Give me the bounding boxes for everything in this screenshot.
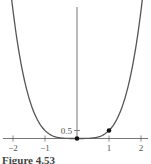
x-tick-label: −1 (40, 143, 50, 153)
data-point (107, 128, 112, 133)
x-tick-label: −2 (8, 143, 18, 153)
y-tick-label: 0.5 (61, 126, 73, 136)
data-point (75, 136, 80, 141)
x-tick-label: 2 (139, 143, 144, 153)
figure-caption: Figure 4.53 (2, 154, 55, 164)
function-plot: −2−1120.5 (0, 0, 151, 164)
axes (3, 7, 148, 142)
x-tick-label: 1 (107, 143, 112, 153)
